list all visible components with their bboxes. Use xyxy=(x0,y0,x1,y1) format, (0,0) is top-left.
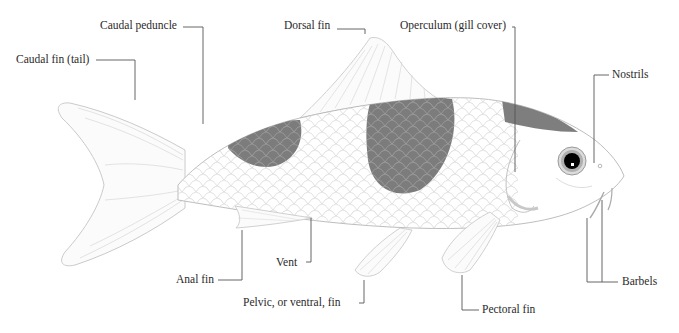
label-anal-fin: Anal fin xyxy=(176,272,214,286)
leader-pelvic-fin xyxy=(359,280,364,303)
label-dorsal-fin: Dorsal fin xyxy=(284,18,330,32)
leader-caudal-fin xyxy=(96,60,135,100)
pupil xyxy=(564,153,580,169)
leader-pectoral-fin xyxy=(462,275,479,310)
label-caudal-peduncle: Caudal peduncle xyxy=(100,18,177,32)
leader-dorsal-fin xyxy=(337,29,365,34)
koi-anatomy-diagram xyxy=(0,0,679,333)
label-operculum: Operculum (gill cover) xyxy=(400,18,506,32)
leader-caudal-peduncle xyxy=(183,27,203,124)
leader-anal-fin xyxy=(218,230,242,280)
pelvic-fin-shape xyxy=(355,228,412,276)
label-pelvic-fin: Pelvic, or ventral, fin xyxy=(243,295,340,309)
label-pectoral-fin: Pectoral fin xyxy=(482,302,535,316)
label-barbels: Barbels xyxy=(622,274,657,288)
label-vent: Vent xyxy=(276,255,297,269)
caudal-fin-shape xyxy=(58,103,185,266)
label-nostrils: Nostrils xyxy=(612,67,648,81)
leader-vent xyxy=(306,218,311,262)
label-caudal-fin: Caudal fin (tail) xyxy=(16,52,89,66)
leader-barbels xyxy=(587,200,618,282)
